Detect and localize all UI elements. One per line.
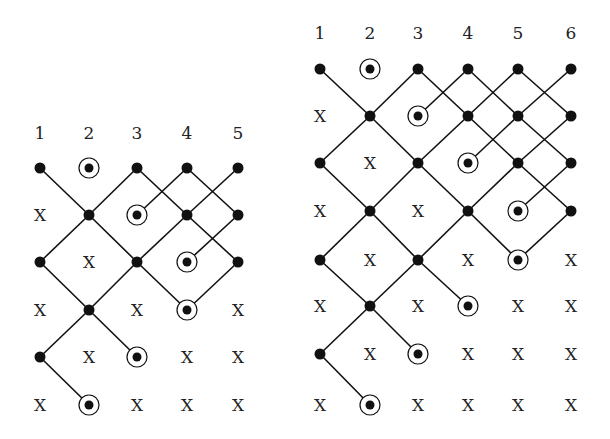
column-label: 2 (84, 123, 95, 143)
x-mark: X (34, 205, 47, 225)
dot-node (463, 64, 474, 75)
edges (320, 69, 571, 405)
x-mark: X (565, 395, 578, 415)
dot-node (233, 210, 244, 221)
dot-node (365, 206, 376, 217)
x-mark: X (83, 252, 96, 272)
x-mark: X (364, 344, 377, 364)
x-mark: X (364, 153, 377, 173)
left-lattice: 12345XXXXXXXXXXXX (34, 123, 245, 415)
dot-node (413, 64, 424, 75)
dot-node (566, 111, 577, 122)
circled-dot-node (177, 252, 197, 272)
x-mark: X (412, 395, 425, 415)
x-mark: X (462, 344, 475, 364)
x-mark: X (314, 201, 327, 221)
dot-node (35, 257, 46, 268)
dot-node (315, 255, 326, 266)
lattice-edge (320, 116, 370, 163)
x-mark: X (181, 347, 194, 367)
dot-node (463, 206, 474, 217)
x-mark: X (512, 395, 525, 415)
circled-dot-node (127, 205, 147, 225)
x-mark: X (232, 395, 245, 415)
dot-node (182, 163, 193, 174)
circled-dot-node (79, 158, 99, 178)
lattice-diagrams: 12345XXXXXXXXXXXX123456XXXXXXXXXXXXXXXXX… (0, 0, 610, 439)
lattice-edge (40, 215, 89, 262)
x-mark: X (565, 250, 578, 270)
x-mark: X (34, 395, 47, 415)
x-mark: X (314, 106, 327, 126)
lattice-edge (89, 262, 137, 310)
x-mark: X (131, 300, 144, 320)
circled-dot-node (508, 250, 528, 270)
circled-dot-node (360, 395, 380, 415)
circled-dot-node (508, 201, 528, 221)
lattice-edge (518, 211, 571, 260)
circled-dot-node (408, 344, 428, 364)
dot-node (315, 158, 326, 169)
x-mark: X (565, 344, 578, 364)
lattice-edge (40, 262, 89, 310)
dot-node (132, 163, 143, 174)
lattice-edge (320, 354, 370, 405)
dot-node (566, 206, 577, 217)
column-label: 3 (413, 23, 424, 43)
dot-node (513, 111, 524, 122)
column-label: 5 (233, 123, 244, 143)
lattice-edge (40, 310, 89, 357)
dot-node (513, 64, 524, 75)
circled-dot-node (127, 347, 147, 367)
x-mark: X (462, 395, 475, 415)
dot-node (35, 352, 46, 363)
column-label: 3 (132, 123, 143, 143)
dot-node (413, 158, 424, 169)
x-mark: X (232, 347, 245, 367)
dot-node (233, 163, 244, 174)
x-mark: X (565, 296, 578, 316)
right-lattice: 123456XXXXXXXXXXXXXXXXXXXX (314, 23, 578, 415)
circled-dot-node (360, 59, 380, 79)
x-mark: X (512, 296, 525, 316)
column-label: 2 (365, 23, 376, 43)
x-mark: X (131, 395, 144, 415)
column-label: 1 (35, 123, 46, 143)
lattice-edge (320, 260, 370, 306)
dot-node (513, 158, 524, 169)
x-mark: X (462, 250, 475, 270)
column-label: 4 (182, 123, 193, 143)
lattice-edge (320, 306, 370, 354)
x-mark: X (232, 300, 245, 320)
lattice-edge (370, 211, 418, 260)
x-mark: X (181, 395, 194, 415)
x-mark: X (364, 250, 377, 270)
lattice-edge (418, 211, 468, 260)
dot-node (315, 349, 326, 360)
x-mark: X (512, 344, 525, 364)
x-mark: X (34, 300, 47, 320)
lattice-edge (370, 260, 418, 306)
x-mark: X (412, 296, 425, 316)
dot-node (84, 210, 95, 221)
dot-node (463, 111, 474, 122)
dot-node (365, 111, 376, 122)
circled-dot-node (177, 300, 197, 320)
lattice-edge (320, 163, 370, 211)
lattice-edge (320, 211, 370, 260)
x-mark: X (83, 347, 96, 367)
x-mark: X (412, 201, 425, 221)
column-label: 1 (315, 23, 326, 43)
x-mark: X (314, 296, 327, 316)
dot-node (233, 257, 244, 268)
column-label: 5 (513, 23, 524, 43)
column-label: 4 (463, 23, 474, 43)
dot-node (35, 163, 46, 174)
dot-node (566, 158, 577, 169)
column-label: 6 (566, 23, 577, 43)
circled-dot-node (408, 106, 428, 126)
dot-node (182, 210, 193, 221)
dot-node (365, 301, 376, 312)
dot-node (132, 257, 143, 268)
dot-node (566, 64, 577, 75)
